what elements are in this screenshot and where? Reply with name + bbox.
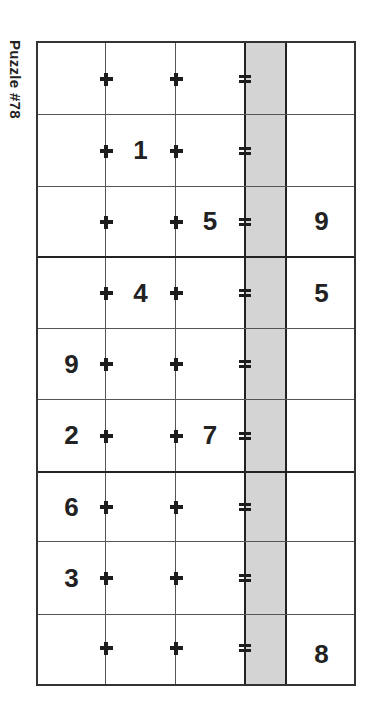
cell-answer[interactable] — [287, 329, 356, 399]
cell-c[interactable] — [176, 615, 244, 686]
cell-a[interactable] — [38, 187, 105, 256]
cell-c[interactable] — [176, 329, 244, 399]
equation-row-9: 8 — [38, 615, 354, 686]
equation-row-2: 1 — [38, 115, 354, 186]
cell-b[interactable] — [106, 473, 175, 541]
equation-row-1 — [38, 43, 354, 114]
cell-c[interactable] — [176, 43, 244, 114]
equation-row-7: 6 — [38, 473, 354, 541]
cell-answer[interactable]: 5 — [287, 258, 356, 328]
equals-icon — [238, 429, 252, 443]
puzzle-title: Puzzle #78 — [7, 40, 24, 119]
cell-answer[interactable] — [287, 115, 356, 186]
cell-answer[interactable] — [287, 43, 356, 114]
equals-icon — [238, 144, 252, 158]
cell-c[interactable] — [176, 542, 244, 614]
cell-a[interactable]: 3 — [38, 542, 105, 614]
equals-icon — [238, 357, 252, 371]
cell-a[interactable] — [38, 258, 105, 328]
cell-b[interactable]: 4 — [106, 258, 175, 328]
cell-answer[interactable] — [287, 473, 356, 541]
cell-c[interactable]: 5 — [176, 187, 244, 256]
cell-a[interactable]: 6 — [38, 473, 105, 541]
cell-b[interactable] — [106, 615, 175, 686]
cell-a[interactable]: 2 — [38, 400, 105, 471]
cell-answer[interactable] — [287, 400, 356, 471]
equals-icon — [238, 571, 252, 585]
puzzle-title-container: Puzzle #78 — [2, 40, 32, 160]
cell-answer[interactable]: 8 — [287, 615, 356, 686]
puzzle-grid: 1 5 9 4 5 9 2 7 — [36, 41, 356, 686]
cell-b[interactable]: 1 — [106, 115, 175, 186]
equation-row-4: 4 5 — [38, 258, 354, 328]
cell-b[interactable] — [106, 329, 175, 399]
cell-c[interactable] — [176, 115, 244, 186]
cell-b[interactable] — [106, 43, 175, 114]
cell-b[interactable] — [106, 400, 175, 471]
cell-a[interactable] — [38, 115, 105, 186]
cell-answer[interactable]: 9 — [287, 187, 356, 256]
cell-c[interactable] — [176, 473, 244, 541]
equals-icon — [238, 641, 252, 655]
cell-c[interactable] — [176, 258, 244, 328]
equals-icon — [238, 500, 252, 514]
equation-row-8: 3 — [38, 542, 354, 614]
cell-a[interactable] — [38, 43, 105, 114]
equals-icon — [238, 72, 252, 86]
cell-b[interactable] — [106, 542, 175, 614]
equals-icon — [238, 286, 252, 300]
cell-a[interactable]: 9 — [38, 329, 105, 399]
equals-icon — [238, 215, 252, 229]
cell-b[interactable] — [106, 187, 175, 256]
cell-c[interactable]: 7 — [176, 400, 244, 471]
equation-row-5: 9 — [38, 329, 354, 399]
cell-a[interactable] — [38, 615, 105, 686]
cell-answer[interactable] — [287, 542, 356, 614]
equation-row-6: 2 7 — [38, 400, 354, 471]
equation-row-3: 5 9 — [38, 187, 354, 256]
